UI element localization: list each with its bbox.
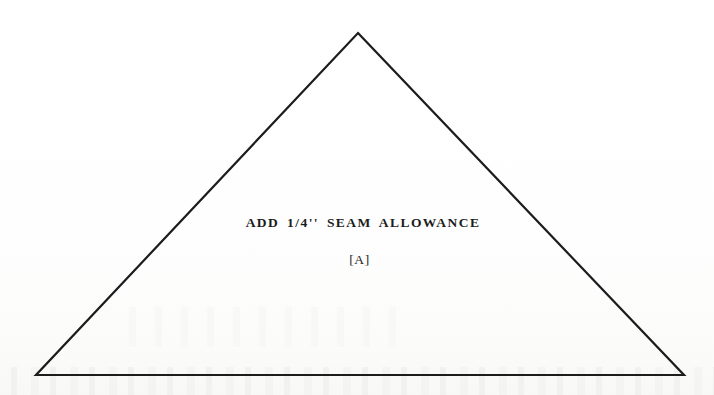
pattern-sheet: ADD 1/4'' SEAM ALLOWANCE [A] bbox=[0, 0, 714, 395]
pattern-piece-id: [A] bbox=[0, 252, 714, 268]
pattern-drawing bbox=[0, 0, 714, 395]
seam-allowance-note: ADD 1/4'' SEAM ALLOWANCE bbox=[0, 215, 714, 231]
triangle-outline bbox=[36, 33, 684, 375]
